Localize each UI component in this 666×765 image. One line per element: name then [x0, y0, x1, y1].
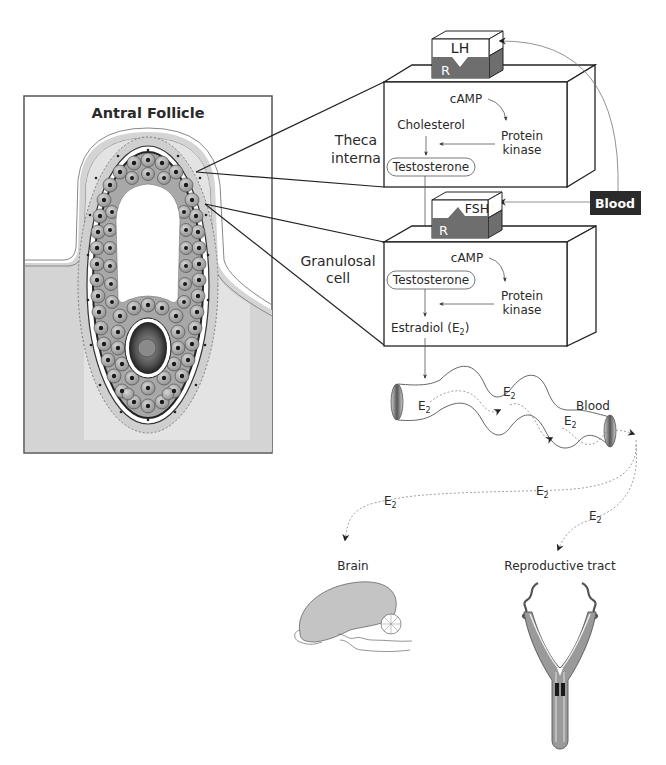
oocyte-nucleus	[138, 339, 156, 357]
theca-protein-line1: Protein	[501, 129, 543, 143]
fsh-hormone-label: FSH	[465, 201, 489, 216]
granulosa-estradiol: Estradiol (E2)	[391, 321, 469, 337]
lh-receptor-r-label: R	[441, 63, 450, 78]
vessel-end-right	[604, 415, 616, 447]
theca-cholesterol: Cholesterol	[397, 118, 465, 132]
brain-illustration	[295, 582, 412, 652]
vessel-e2-2: E2	[503, 385, 516, 401]
reproductive-tract-label: Reproductive tract	[504, 559, 616, 573]
theca-protein-line2: kinase	[503, 143, 542, 157]
theca-label-line2: interna	[331, 150, 381, 166]
vessel-blood-label: Blood	[576, 399, 610, 413]
brain-label: Brain	[337, 559, 368, 573]
fsh-receptor-r-label: R	[439, 223, 448, 238]
fsh-receptor-cube: FSH R	[432, 192, 502, 238]
e2-to-brain-arrow	[345, 440, 636, 540]
reproductive-tract-illustration	[523, 583, 597, 749]
granulosa-testosterone: Testosterone	[392, 273, 469, 287]
granulosa-protein-line1: Protein	[501, 289, 543, 303]
granulosa-label-line1: Granulosal	[300, 253, 375, 269]
antral-follicle-panel: Antral Follicle	[24, 96, 272, 453]
lh-hormone-label: LH	[451, 40, 469, 56]
granulosa-label-line2: cell	[326, 270, 350, 286]
theca-camp: cAMP	[450, 92, 482, 106]
vessel-e2-3: E2	[564, 414, 577, 430]
follicle-title: Antral Follicle	[91, 105, 204, 121]
e2-to-tract-arrow	[558, 445, 637, 550]
vessel-end-left	[391, 384, 403, 420]
granulosa-camp: cAMP	[451, 251, 483, 265]
vessel-e2-1: E2	[418, 399, 431, 415]
dist-e2-2: E2	[384, 494, 397, 510]
theca-label-line1: Theca	[334, 132, 377, 148]
dist-e2-1: E2	[536, 484, 549, 500]
theca-testosterone: Testosterone	[392, 160, 469, 174]
dist-e2-3: E2	[589, 509, 602, 525]
granulosa-protein-line2: kinase	[503, 303, 542, 317]
blood-source-label: Blood	[595, 196, 635, 211]
diagram-canvas: Antral Follicle Theca interna LH R cAMP …	[0, 0, 666, 765]
lh-receptor-cube: LH R	[432, 31, 503, 78]
